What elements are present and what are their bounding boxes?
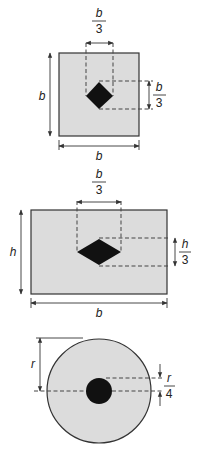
cross-section-diagram: b 3 b 3 b b b 3 h 3 h [0, 0, 200, 464]
width-label: b [96, 306, 103, 320]
hole-height-denominator: 3 [156, 96, 163, 110]
width-label: b [96, 149, 103, 163]
circular-hole [86, 378, 112, 404]
height-label: b [39, 89, 46, 103]
square-section-figure: b 3 b 3 b b [39, 6, 166, 163]
hole-height-numerator: h [182, 237, 189, 251]
height-label: h [10, 245, 17, 259]
offset-denominator: 4 [166, 387, 173, 401]
hole-width-numerator: b [96, 167, 103, 181]
rectangle-section-figure: b 3 h 3 h b [10, 167, 191, 320]
offset-numerator: r [167, 371, 172, 385]
hole-width-denominator: 3 [96, 183, 103, 197]
hole-height-denominator: 3 [182, 253, 189, 267]
hole-width-denominator: 3 [96, 22, 103, 36]
radius-label: r [31, 357, 36, 371]
circle-section-figure: r r 4 [31, 338, 175, 443]
hole-width-numerator: b [96, 6, 103, 20]
hole-height-numerator: b [156, 80, 163, 94]
